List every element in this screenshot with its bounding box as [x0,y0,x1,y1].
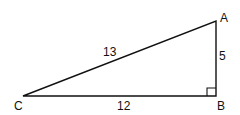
triangle-shape [23,21,216,96]
vertex-label-a: A [220,11,228,25]
vertex-label-c: C [14,99,23,113]
right-angle-marker [207,88,216,96]
right-triangle-diagram: A B C 13 12 5 [0,0,240,115]
side-label-height: 5 [219,49,226,63]
side-label-base: 12 [117,99,131,113]
vertex-label-b: B [217,99,225,113]
side-label-hypotenuse: 13 [103,45,117,59]
